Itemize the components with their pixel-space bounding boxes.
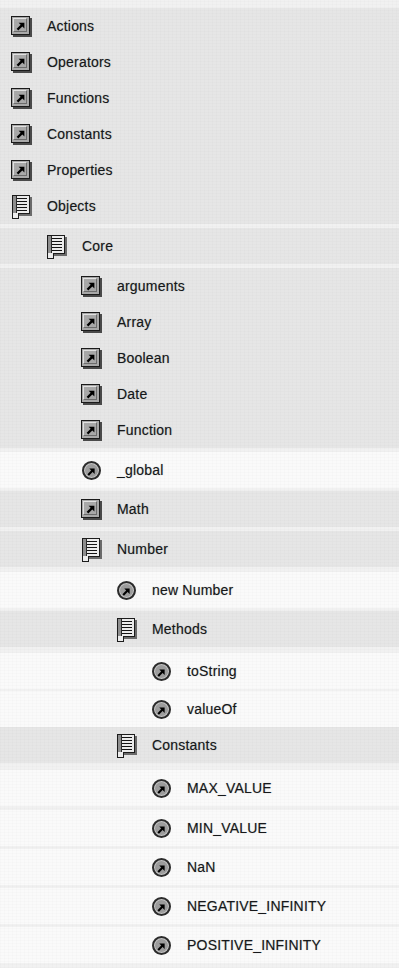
tree-item-objects[interactable]: Objects <box>0 188 399 224</box>
indent-spacer <box>0 709 151 710</box>
tree-item-label: Functions <box>47 91 110 105</box>
tree-item-math[interactable]: Math <box>0 491 399 527</box>
book-icon <box>11 195 34 218</box>
tree-item-array[interactable]: Array <box>0 304 399 340</box>
indent-spacer <box>0 322 81 323</box>
indent-spacer <box>0 170 11 171</box>
tree-item-label: Operators <box>47 55 111 69</box>
indent-spacer <box>0 906 151 907</box>
tree-item-label: Actions <box>47 19 94 33</box>
indent-spacer <box>0 206 11 207</box>
tree-item-label: MIN_VALUE <box>187 821 267 835</box>
tree-item-function[interactable]: Function <box>0 412 399 448</box>
tree-item-core[interactable]: Core <box>0 228 399 264</box>
book-icon <box>116 734 139 757</box>
indent-spacer <box>0 98 11 99</box>
tree-item-label: _global <box>117 463 164 477</box>
indent-spacer <box>0 745 116 746</box>
tree-item-label: POSITIVE_INFINITY <box>187 938 321 952</box>
indent-spacer <box>0 945 151 946</box>
indent-spacer <box>0 430 81 431</box>
method-circle-icon <box>81 459 104 482</box>
tree-item-new-number[interactable]: new Number <box>0 572 399 608</box>
tree-item-number[interactable]: Number <box>0 531 399 567</box>
shortcut-arrow-icon <box>81 383 104 406</box>
method-circle-icon <box>151 817 174 840</box>
tree-item-label: Math <box>117 502 149 516</box>
method-circle-icon <box>151 934 174 957</box>
book-icon <box>116 618 139 641</box>
shortcut-arrow-icon <box>81 311 104 334</box>
shortcut-arrow-icon <box>11 123 34 146</box>
tree-item-constants[interactable]: Constants <box>0 116 399 152</box>
tree-item-negative-infinity[interactable]: NEGATIVE_INFINITY <box>0 888 399 924</box>
shortcut-arrow-icon <box>11 15 34 38</box>
tree-item-arguments[interactable]: arguments <box>0 268 399 304</box>
tree-item-properties[interactable]: Properties <box>0 152 399 188</box>
shortcut-arrow-icon <box>81 498 104 521</box>
tree-item-label: NEGATIVE_INFINITY <box>187 899 326 913</box>
shortcut-arrow-icon <box>81 347 104 370</box>
tree-item-label: Objects <box>47 199 96 213</box>
shortcut-arrow-icon <box>81 419 104 442</box>
tree-item-label: Properties <box>47 163 113 177</box>
indent-spacer <box>0 671 151 672</box>
tree-item-label: new Number <box>152 583 233 597</box>
method-circle-icon <box>151 856 174 879</box>
method-circle-icon <box>151 698 174 721</box>
indent-spacer <box>0 394 81 395</box>
indent-spacer <box>0 828 151 829</box>
indent-spacer <box>0 549 81 550</box>
tree-item-label: Function <box>117 423 172 437</box>
indent-spacer <box>0 509 81 510</box>
shortcut-arrow-icon <box>81 275 104 298</box>
tree-item-label: Methods <box>152 622 207 636</box>
indent-spacer <box>0 629 116 630</box>
method-circle-icon <box>116 579 139 602</box>
tree-item-valueof[interactable]: valueOf <box>0 691 399 727</box>
tree-item-label: Array <box>117 315 151 329</box>
tree-item-label: Date <box>117 387 147 401</box>
tree-item-label: toString <box>187 664 237 678</box>
indent-spacer <box>0 26 11 27</box>
tree-item-nan[interactable]: NaN <box>0 849 399 885</box>
method-circle-icon <box>151 777 174 800</box>
indent-spacer <box>0 590 116 591</box>
indent-spacer <box>0 358 81 359</box>
tree-item-label: Constants <box>152 738 217 752</box>
tree-item-label: Boolean <box>117 351 170 365</box>
shortcut-arrow-icon <box>11 51 34 74</box>
tree-item-label: MAX_VALUE <box>187 781 272 795</box>
tree-item-global[interactable]: _global <box>0 452 399 488</box>
tree-item-label: valueOf <box>187 702 237 716</box>
tree-item-label: Core <box>82 239 113 253</box>
tree-item-actions[interactable]: Actions <box>0 8 399 44</box>
method-circle-icon <box>151 895 174 918</box>
tree-item-date[interactable]: Date <box>0 376 399 412</box>
shortcut-arrow-icon <box>11 159 34 182</box>
book-icon <box>46 235 69 258</box>
indent-spacer <box>0 134 11 135</box>
tree-item-constants[interactable]: Constants <box>0 727 399 763</box>
book-icon <box>81 538 104 561</box>
tree-item-tostring[interactable]: toString <box>0 653 399 689</box>
actions-toolbox-tree: ActionsOperatorsFunctionsConstantsProper… <box>0 0 399 968</box>
tree-item-methods[interactable]: Methods <box>0 611 399 647</box>
tree-item-functions[interactable]: Functions <box>0 80 399 116</box>
tree-item-label: arguments <box>117 279 185 293</box>
indent-spacer <box>0 62 11 63</box>
tree-item-label: NaN <box>187 860 216 874</box>
shortcut-arrow-icon <box>11 87 34 110</box>
tree-item-max-value[interactable]: MAX_VALUE <box>0 770 399 806</box>
indent-spacer <box>0 246 46 247</box>
tree-item-positive-infinity[interactable]: POSITIVE_INFINITY <box>0 927 399 963</box>
indent-spacer <box>0 286 81 287</box>
tree-item-boolean[interactable]: Boolean <box>0 340 399 376</box>
tree-item-operators[interactable]: Operators <box>0 44 399 80</box>
tree-item-min-value[interactable]: MIN_VALUE <box>0 810 399 846</box>
indent-spacer <box>0 867 151 868</box>
method-circle-icon <box>151 660 174 683</box>
tree-item-label: Constants <box>47 127 112 141</box>
tree-item-label: Number <box>117 542 168 556</box>
indent-spacer <box>0 470 81 471</box>
